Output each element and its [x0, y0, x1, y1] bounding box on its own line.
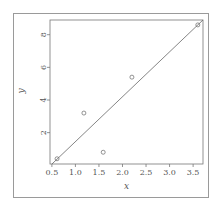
data-point — [101, 150, 105, 154]
x-axis: 0.51.01.52.02.53.03.5 — [46, 164, 200, 177]
x-tick-label: 1.0 — [69, 168, 82, 177]
y-tick-label: 6 — [39, 65, 48, 70]
fitted-line — [52, 20, 203, 164]
y-tick-label: 8 — [39, 32, 48, 37]
y-tick-label: 2 — [39, 130, 48, 135]
y-axis: 2468 — [39, 32, 50, 135]
x-tick-label: 1.5 — [93, 168, 106, 177]
x-tick-label: 2.5 — [140, 168, 153, 177]
x-axis-label: x — [124, 181, 129, 191]
x-tick-label: 3.0 — [163, 168, 176, 177]
x-tick-label: 3.5 — [187, 168, 200, 177]
data-point — [82, 111, 86, 115]
y-axis-label: y — [16, 88, 26, 95]
data-point — [130, 75, 134, 79]
x-tick-label: 2.0 — [116, 168, 129, 177]
x-tick-label: 0.5 — [46, 168, 59, 177]
scatter-chart: 0.51.01.52.02.53.03.5 2468 x y — [0, 0, 219, 212]
y-tick-label: 4 — [39, 97, 48, 102]
